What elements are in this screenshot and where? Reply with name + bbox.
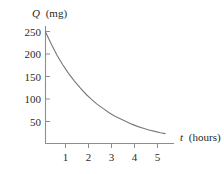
exponential-decay-figure: 250 200 150 100 50 1 2 3 4 5 Q (mg) t (h… xyxy=(0,0,224,174)
y-axis-ticks xyxy=(46,32,51,122)
y-tick-label-200: 200 xyxy=(25,48,42,60)
x-axis-unit: (hours) xyxy=(189,131,221,144)
y-tick-label-50: 50 xyxy=(30,116,42,128)
plot-canvas: 250 200 150 100 50 1 2 3 4 5 Q (mg) t (h… xyxy=(0,0,224,174)
y-tick-label-150: 150 xyxy=(25,71,42,83)
decay-curve xyxy=(46,32,166,134)
y-axis-title: Q (mg) xyxy=(32,7,67,20)
x-tick-label-4: 4 xyxy=(132,151,138,163)
y-axis-variable: Q xyxy=(32,7,40,19)
x-axis-variable: t xyxy=(180,131,184,143)
x-axis-ticks xyxy=(66,144,158,149)
x-tick-label-1: 1 xyxy=(63,151,69,163)
x-tick-label-2: 2 xyxy=(86,151,92,163)
y-tick-label-100: 100 xyxy=(25,93,42,105)
y-axis-unit: (mg) xyxy=(46,7,68,20)
x-tick-label-3: 3 xyxy=(109,151,115,163)
x-tick-label-5: 5 xyxy=(155,151,161,163)
y-tick-label-250: 250 xyxy=(25,26,42,38)
x-axis-title: t (hours) xyxy=(180,131,221,144)
